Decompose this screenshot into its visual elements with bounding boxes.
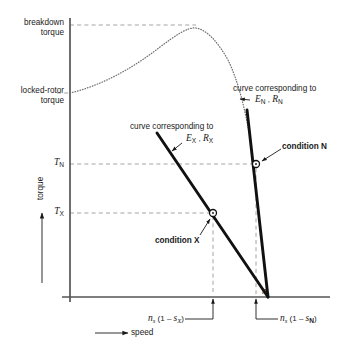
rx-subscript: X [209,137,213,144]
torque-speed-figure: breakdown torque locked-rotor torque TN … [0,0,350,349]
curve-ex-rx-text: curve corresponding to [130,122,213,132]
tn-subscript: N [59,161,64,168]
speed-n-open: (1 – [290,314,306,323]
curve-ex-rx-symbols: EX , RX [186,133,213,145]
speed-n-close: ) [314,314,317,323]
bracket-speed-n [256,308,278,319]
figure-canvas [0,0,350,349]
tx-tick-label: TX [36,206,64,218]
breakdown-torque-line1: breakdown [24,18,64,27]
leader-condition-n [262,149,281,161]
rn-subscript: N [278,98,283,105]
locked-rotor-torque-line2: torque [41,96,64,105]
condition-n-marker [253,161,260,168]
speed-x-open: (1 – [158,314,174,323]
breakdown-torque-line2: torque [41,28,64,37]
speed-axis-label: speed [131,328,153,338]
condition-x-label: condition X [155,236,200,246]
locked-rotor-torque-label: locked-rotor torque [2,86,64,105]
ns-tick-label: ns [262,286,269,298]
condition-x-marker [210,210,217,217]
bracket-speed-x [185,308,213,319]
speed-x-close: ) [181,314,184,323]
torque-axis-label: torque [36,177,45,200]
speed-n-measure-label: ns (1 – sN) [280,313,317,325]
breakdown-torque-label: breakdown torque [6,18,64,37]
curve-en-rn-text: curve corresponding to [233,84,316,94]
leader-condition-x [200,219,210,235]
tn-tick-label: TN [36,157,64,169]
ns-subscript: s [267,290,270,297]
motor-torque-speed-curve [70,28,249,132]
speed-x-measure-label: ns (1 – sX) [110,313,184,325]
tx-subscript: X [60,210,64,217]
locked-rotor-torque-line1: locked-rotor [21,86,64,95]
curve-en-rn-symbols: EN , RN [255,94,283,106]
leader-ex-rx [172,143,182,151]
condition-n-label: condition N [282,142,327,152]
